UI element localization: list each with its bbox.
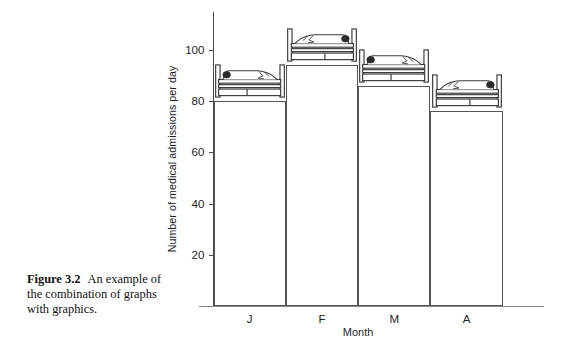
bar-j: [214, 101, 286, 306]
y-axis-tick-mark: [209, 50, 214, 51]
bar-m: [358, 86, 430, 306]
hospital-bed-icon: [285, 26, 359, 64]
bar-chart-figure: Number of medical admissions per day 204…: [0, 0, 583, 360]
bed-graphic-a: [430, 72, 504, 110]
x-axis-tick-label-a: A: [463, 312, 471, 325]
y-axis-title: Number of medical admissions per day: [166, 29, 178, 289]
bar-f: [286, 65, 358, 306]
hospital-bed-icon: [430, 72, 504, 110]
x-axis-tick-label-f: F: [318, 312, 325, 325]
x-axis-line: [199, 306, 544, 307]
bar-a: [430, 111, 502, 306]
y-axis-tick-label: 100: [185, 44, 204, 56]
bed-graphic-f: [285, 26, 359, 64]
hospital-bed-icon: [213, 62, 287, 100]
x-axis-tick-label-m: M: [389, 312, 399, 325]
y-axis-tick-label: 40: [192, 198, 205, 210]
hospital-bed-icon: [357, 47, 431, 85]
y-axis-tick-label: 20: [192, 249, 205, 261]
x-axis-title: Month: [343, 326, 374, 338]
bed-graphic-m: [357, 47, 431, 85]
x-axis-tick-label-j: J: [247, 312, 253, 325]
bed-graphic-j: [213, 62, 287, 100]
y-axis-tick-label: 60: [192, 147, 205, 159]
y-axis-tick-label: 80: [192, 95, 205, 107]
